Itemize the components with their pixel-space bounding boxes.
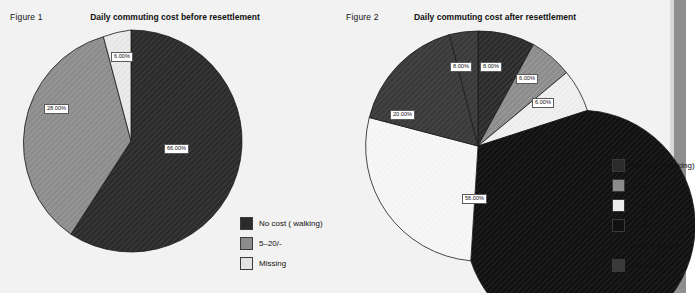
- legend-label-36-50-2: 36–50/-: [631, 221, 658, 230]
- figure-1-label: Figure 1: [10, 12, 43, 22]
- legend-label-no-cost: No cost ( walking): [259, 219, 323, 228]
- legend-swatch-36-50-2: [612, 219, 625, 232]
- legend-swatch-no-cost-2: [612, 159, 625, 172]
- slice-label-no-cost: 66.00%: [164, 144, 189, 154]
- slice-label-5-20: 28.00%: [44, 104, 69, 114]
- legend-swatch-no-cost: [240, 217, 253, 230]
- legend-swatch-missing: [240, 257, 253, 270]
- legend-swatch-5-20: [240, 237, 253, 250]
- legend-label-5-20: 5–20/-: [259, 239, 282, 248]
- figure-2-pie-svg: [358, 26, 598, 266]
- slice-label-36-50-2: 56.00%: [462, 194, 487, 204]
- legend-swatch-missing-2: [612, 259, 625, 272]
- legend-item-21-35-2: 21–35/-: [612, 200, 695, 211]
- legend-item-5-20: 5–20/-: [240, 238, 323, 249]
- slice-label-missing: 6.00%: [111, 52, 133, 62]
- slice-label-no-cost-2: 8.00%: [480, 62, 502, 72]
- legend-label-more-than-50-2: more than 50/-: [629, 241, 681, 250]
- figure-1-panel: Figure 1 Daily commuting cost before res…: [0, 0, 340, 293]
- figure-2-pie: 8.00% 6.00% 6.00% 56.00% 20.00% 8.00%: [358, 26, 598, 266]
- legend-item-no-cost-2: No cost ( walking): [612, 160, 695, 171]
- slice-label-21-35-2: 6.00%: [532, 98, 554, 108]
- legend-swatch-5-20-2: [612, 179, 625, 192]
- slice-label-5-20-2: 6.00%: [516, 74, 538, 84]
- legend-label-no-cost-2: No cost ( walking): [631, 161, 695, 170]
- legend-item-36-50-2: 36–50/-: [612, 220, 695, 231]
- figure-1-title: Daily commuting cost before resettlement: [60, 12, 290, 22]
- slice-label-missing-2: 8.00%: [450, 62, 472, 72]
- figure-2-title: Daily commuting cost after resettlement: [390, 12, 600, 22]
- legend-label-5-20-2: 5–20/-: [631, 181, 654, 190]
- legend-item-missing: Missing: [240, 258, 323, 269]
- figure-2-panel: Figure 2 Daily commuting cost after rese…: [340, 0, 670, 293]
- legend-label-missing: Missing: [259, 259, 286, 268]
- figure-1-pie-svg: [18, 28, 244, 254]
- legend-swatch-21-35-2: [612, 199, 625, 212]
- slice-label-more-than-50-2: 20.00%: [390, 110, 415, 120]
- legend-item-more-than-50-2: more than 50/-: [612, 240, 695, 251]
- legend-label-missing-2: Missing: [631, 261, 658, 270]
- figure-2-label: Figure 2: [346, 12, 379, 22]
- legend-label-21-35-2: 21–35/-: [631, 201, 658, 210]
- legend-item-missing-2: Missing: [612, 260, 695, 271]
- figure-1-pie: 66.00% 28.00% 6.00%: [18, 28, 244, 254]
- figure-2-legend: No cost ( walking) 5–20/- 21–35/- 36–50/…: [612, 160, 695, 280]
- legend-item-no-cost: No cost ( walking): [240, 218, 323, 229]
- figure-1-legend: No cost ( walking) 5–20/- Missing: [240, 218, 323, 278]
- legend-item-5-20-2: 5–20/-: [612, 180, 695, 191]
